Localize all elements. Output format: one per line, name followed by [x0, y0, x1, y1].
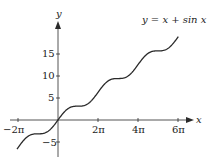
x-tick-label-4pi: 4π	[132, 124, 145, 135]
y-tick-label-5: 5	[48, 92, 54, 103]
x-tick-label-2pi: 2π	[92, 124, 105, 135]
y-tick-label-15: 15	[42, 48, 55, 59]
x-axis-label: x	[196, 114, 202, 125]
x-tick-label-6pi: 6π	[172, 124, 185, 135]
y-tick-label-neg5: −5	[42, 137, 57, 148]
x-tick-label-neg2pi: −2π	[3, 124, 25, 135]
y-tick-label-10: 10	[42, 70, 55, 81]
y-axis-label: y	[55, 8, 62, 19]
chart: −2π 2π 4π 6π 15 10 5 −5 x y y = x + sin …	[0, 0, 207, 159]
formula-label: y = x + sin x	[141, 14, 207, 25]
x-axis-arrow-icon	[186, 117, 194, 123]
y-axis-arrow-icon	[55, 21, 61, 29]
